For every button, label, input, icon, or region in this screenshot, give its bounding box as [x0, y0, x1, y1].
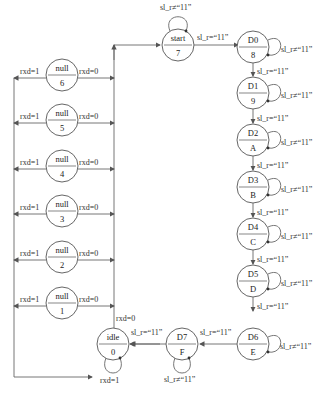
state-null2: null 2 rxd=1 rxd=0 [14, 241, 114, 273]
svg-text:rxd=1: rxd=1 [20, 158, 39, 167]
svg-text:sl_r=“11”: sl_r=“11” [131, 328, 163, 337]
svg-text:rxd=1: rxd=1 [20, 295, 39, 304]
svg-text:2: 2 [60, 260, 64, 270]
svg-text:D6: D6 [248, 332, 258, 342]
state-d0: D0 8 sl_r≠“11” [237, 31, 313, 63]
svg-text:rxd=0: rxd=0 [79, 295, 98, 304]
state-d4: D4 C sl_r≠“11” [237, 218, 313, 250]
svg-text:D0: D0 [248, 35, 258, 45]
svg-text:sl_r=“11”: sl_r=“11” [257, 161, 289, 170]
svg-text:7: 7 [176, 48, 180, 58]
svg-text:sl_r=“11”: sl_r=“11” [257, 208, 289, 217]
svg-text:rxd=0: rxd=0 [79, 158, 98, 167]
svg-text:rxd=1: rxd=1 [20, 203, 39, 212]
state-d2: D2 A sl_r≠“11” [237, 124, 313, 156]
svg-text:rxd=0: rxd=0 [79, 203, 98, 212]
svg-text:6: 6 [60, 78, 64, 88]
state-null1: null 1 rxd=1 rxd=0 [14, 287, 114, 319]
svg-text:sl_r≠“11”: sl_r≠“11” [164, 375, 196, 384]
state-idle: idle 0 rxd=1 rxd=0 sl_r=“11” [97, 314, 163, 385]
svg-text:B: B [250, 190, 256, 200]
state-d6: D6 E sl_r≠“11” [237, 328, 312, 360]
state-d7: D7 F sl_r≠“11” [164, 328, 198, 384]
svg-text:sl_r=“11”: sl_r=“11” [257, 302, 289, 311]
svg-text:rxd=1: rxd=1 [20, 249, 39, 258]
state-null5: null 5 rxd=1 rxd=0 [14, 104, 114, 136]
svg-text:D2: D2 [248, 128, 258, 138]
state-start: start 7 sl_r≠“11” [160, 3, 194, 61]
svg-text:sl_r≠“11”: sl_r≠“11” [281, 91, 313, 100]
svg-text:null: null [55, 199, 69, 209]
svg-text:sl_r≠“11”: sl_r≠“11” [281, 45, 313, 54]
svg-text:rxd=0: rxd=0 [79, 112, 98, 121]
svg-text:3: 3 [60, 214, 64, 224]
svg-text:sl_r=“11”: sl_r=“11” [257, 255, 289, 264]
svg-text:8: 8 [251, 50, 255, 60]
state-diagram: null 6 rxd=1 rxd=0 null 5 rxd=1 rxd=0 nu… [0, 0, 332, 397]
svg-text:1: 1 [60, 306, 64, 316]
svg-text:sl_r=“11”: sl_r=“11” [197, 33, 229, 42]
svg-text:D3: D3 [248, 175, 258, 185]
svg-text:rxd=0: rxd=0 [79, 67, 98, 76]
svg-text:9: 9 [251, 96, 255, 106]
svg-text:null: null [55, 154, 69, 164]
svg-text:A: A [250, 143, 257, 153]
svg-text:F: F [180, 347, 185, 357]
svg-text:sl_r≠“11”: sl_r≠“11” [160, 3, 192, 12]
svg-text:sl_r=“11”: sl_r=“11” [257, 114, 289, 123]
svg-text:sl_r≠“11”: sl_r≠“11” [281, 279, 313, 288]
svg-text:5: 5 [60, 123, 64, 133]
state-null4: null 4 rxd=1 rxd=0 [14, 150, 114, 182]
state-null6: null 6 rxd=1 rxd=0 [14, 59, 114, 91]
svg-text:sl_r≠“11”: sl_r≠“11” [281, 232, 313, 241]
svg-text:null: null [55, 63, 69, 73]
svg-text:D1: D1 [248, 81, 258, 91]
state-d1: D1 9 sl_r≠“11” [237, 77, 313, 109]
svg-text:null: null [55, 108, 69, 118]
svg-text:null: null [55, 291, 69, 301]
svg-text:E: E [250, 347, 255, 357]
svg-text:D7: D7 [177, 332, 187, 342]
svg-text:null: null [55, 245, 69, 255]
svg-text:rxd=0: rxd=0 [79, 249, 98, 258]
svg-text:D: D [250, 284, 256, 294]
state-d5: D5 D sl_r≠“11” [237, 265, 313, 297]
svg-text:start: start [171, 33, 186, 43]
svg-text:rxd=0: rxd=0 [116, 314, 135, 323]
svg-text:sl_r≠“11”: sl_r≠“11” [281, 185, 313, 194]
svg-text:rxd=1: rxd=1 [20, 112, 39, 121]
svg-text:0: 0 [111, 347, 115, 357]
svg-text:rxd=1: rxd=1 [20, 67, 39, 76]
state-null3: null 3 rxd=1 rxd=0 [14, 195, 114, 227]
svg-text:idle: idle [107, 332, 120, 342]
svg-text:D5: D5 [248, 269, 258, 279]
svg-text:rxd=1: rxd=1 [100, 376, 119, 385]
svg-text:sl_r=“11”: sl_r=“11” [257, 67, 289, 76]
svg-text:sl_r≠“11”: sl_r≠“11” [281, 138, 313, 147]
svg-text:D4: D4 [248, 222, 259, 232]
state-d3: D3 B sl_r≠“11” [237, 171, 313, 203]
svg-text:sl_r=“11”: sl_r=“11” [200, 328, 232, 337]
svg-text:C: C [250, 237, 256, 247]
svg-text:sl_r≠“11”: sl_r≠“11” [280, 342, 312, 351]
